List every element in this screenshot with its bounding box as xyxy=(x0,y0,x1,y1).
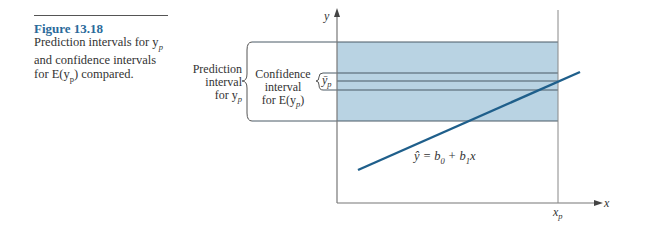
y-axis-label: y xyxy=(324,10,329,23)
confidence-interval-label: Confidence interval for E(yp) xyxy=(253,68,313,111)
regression-equation: ŷ = b0 + b1x xyxy=(414,150,475,168)
prediction-brace-icon xyxy=(242,42,252,121)
y-axis-arrow-icon xyxy=(334,8,340,17)
xp-label: xp xyxy=(553,206,563,223)
prediction-interval-label: Prediction interval for yp xyxy=(184,63,242,106)
ybar-label: ȳp xyxy=(322,74,332,91)
diagram-canvas xyxy=(0,0,645,230)
x-axis-label: x xyxy=(604,197,609,210)
x-axis-arrow-icon xyxy=(594,200,603,206)
